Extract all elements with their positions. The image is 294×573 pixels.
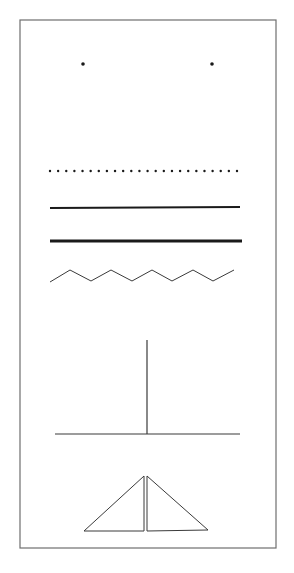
dotted-line	[49, 170, 238, 172]
dot	[187, 170, 189, 172]
dot	[163, 170, 165, 172]
dot	[98, 170, 100, 172]
dot	[138, 170, 140, 172]
dot	[146, 170, 148, 172]
point-right	[210, 62, 214, 66]
dot	[195, 170, 197, 172]
diagram-canvas	[0, 0, 294, 573]
line-types-drawing	[0, 0, 294, 573]
thin-solid-line	[50, 207, 240, 208]
dot	[57, 170, 59, 172]
dot	[130, 170, 132, 172]
dot	[81, 170, 83, 172]
dot	[73, 170, 75, 172]
zigzag-line	[50, 270, 234, 282]
dot	[155, 170, 157, 172]
triangle-right	[147, 476, 208, 531]
dot	[203, 170, 205, 172]
dot	[89, 170, 91, 172]
dot	[65, 170, 67, 172]
frame-border	[20, 20, 276, 548]
point-left	[81, 62, 85, 66]
dot	[106, 170, 108, 172]
dot	[220, 170, 222, 172]
dot	[114, 170, 116, 172]
dot	[122, 170, 124, 172]
triangle-left	[84, 476, 144, 531]
dot	[179, 170, 181, 172]
dot	[49, 170, 51, 172]
dot	[236, 170, 238, 172]
dot	[228, 170, 230, 172]
dot	[211, 170, 213, 172]
dot	[171, 170, 173, 172]
